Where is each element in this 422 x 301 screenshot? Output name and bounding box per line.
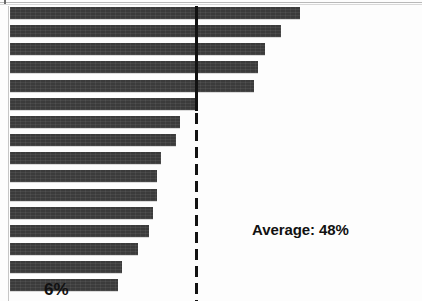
bar-row bbox=[10, 189, 157, 201]
bar-row bbox=[10, 152, 161, 164]
bar-row bbox=[10, 43, 265, 55]
bar-row bbox=[10, 170, 157, 182]
bar-row bbox=[10, 243, 138, 255]
bar-row bbox=[10, 116, 180, 128]
minimum-value-label: 6% bbox=[44, 280, 69, 300]
bar-row bbox=[10, 25, 281, 37]
bar-row bbox=[10, 98, 196, 110]
average-line-dashed-segment bbox=[195, 113, 198, 301]
bar-row bbox=[10, 261, 122, 273]
bar-row bbox=[10, 207, 153, 219]
bar-row bbox=[10, 61, 258, 73]
bar-row bbox=[10, 134, 176, 146]
average-line-solid-segment bbox=[195, 6, 198, 111]
bars-layer bbox=[0, 0, 422, 301]
bar-row bbox=[10, 225, 149, 237]
bar-row bbox=[10, 7, 300, 19]
average-annotation-label: Average: 48% bbox=[252, 221, 349, 238]
bar-row bbox=[10, 80, 254, 92]
bar-chart: Average: 48% 6% bbox=[0, 0, 422, 301]
